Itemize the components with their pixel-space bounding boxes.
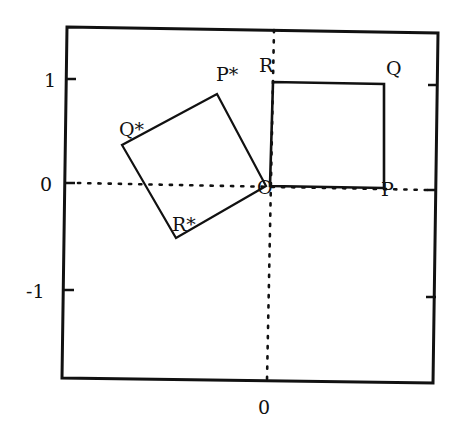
label-q: Q: [386, 57, 402, 79]
label-p-star: P*: [216, 63, 239, 85]
label-q-star: Q*: [119, 118, 145, 140]
y-tick-label-1: 1: [44, 69, 56, 91]
square-opqr: [270, 82, 384, 188]
label-r: R: [259, 54, 274, 76]
y-tick-label-0: 0: [40, 173, 52, 195]
x-tick-label-0: 0: [258, 396, 270, 418]
label-r-star: R*: [172, 213, 196, 235]
figure-canvas: 1 0 -1 0 R Q P O P* Q* R*: [0, 0, 457, 430]
plot-frame: [62, 27, 438, 383]
label-o: O: [257, 176, 273, 198]
label-p: P: [381, 178, 394, 200]
y-tick-label-neg1: -1: [26, 280, 45, 302]
